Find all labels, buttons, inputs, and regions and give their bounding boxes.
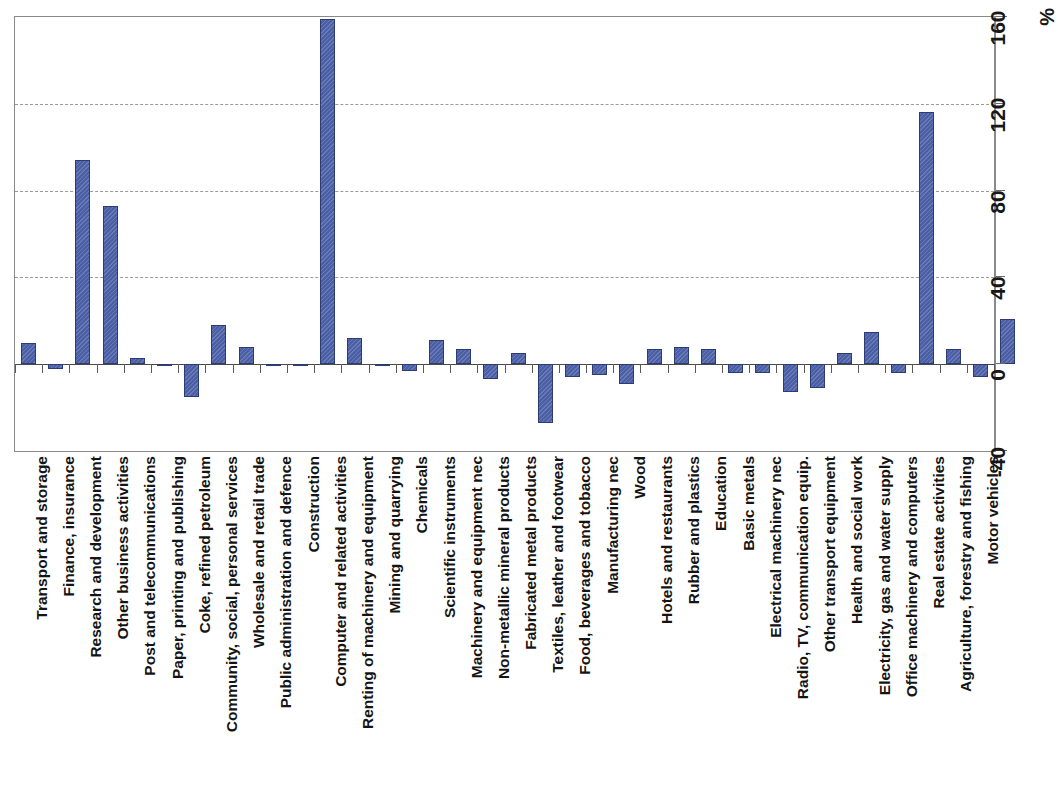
axis-tick-label: 40 <box>986 277 1010 300</box>
bar <box>647 349 662 364</box>
bar <box>103 206 118 364</box>
bar <box>511 353 526 364</box>
bar <box>239 347 254 364</box>
category-label: Coke, refined petroleum <box>197 456 213 633</box>
bar <box>674 347 689 364</box>
bar <box>755 364 770 373</box>
category-tick <box>505 364 506 373</box>
category-tick <box>341 364 342 373</box>
axis-tick-0 <box>996 363 1005 364</box>
category-tick <box>314 364 315 373</box>
bar <box>320 19 335 364</box>
category-tick <box>640 364 641 373</box>
category-tick <box>124 364 125 373</box>
bar <box>21 343 36 365</box>
bar <box>864 332 879 365</box>
category-label: Wholesale and retail trade <box>251 456 267 648</box>
category-label: Real estate activities <box>931 456 947 609</box>
category-label: Public administration and defence <box>278 456 294 708</box>
bar <box>810 364 825 388</box>
category-tick <box>205 364 206 373</box>
category-tick <box>695 364 696 373</box>
category-label: Hotels and restaurants <box>659 456 675 624</box>
category-tick <box>858 364 859 373</box>
value-axis: 16012080400-40 <box>995 16 998 452</box>
category-tick <box>668 364 669 373</box>
bar <box>783 364 798 392</box>
axis-tick-label: 160 <box>986 10 1010 45</box>
category-label: Community, social, personal services <box>224 456 240 732</box>
bar <box>701 349 716 364</box>
category-label: Mining and quarrying <box>387 456 403 614</box>
bar <box>266 364 281 366</box>
category-label: Non-metallic mineral products <box>496 456 512 679</box>
bar <box>347 338 362 364</box>
category-tick <box>967 364 968 373</box>
axis-tick-label: 80 <box>986 190 1010 213</box>
bar <box>157 364 172 366</box>
category-tick <box>287 364 288 373</box>
bar <box>1000 319 1015 365</box>
category-label: Radio, TV, communication equip. <box>795 456 811 699</box>
category-tick <box>69 364 70 373</box>
category-tick <box>477 364 478 373</box>
bar <box>130 358 145 365</box>
category-label: Textiles, leather and footwear <box>550 456 566 673</box>
category-label: Machinery and equipment nec <box>469 456 485 678</box>
category-label: Rubber and plastics <box>686 456 702 604</box>
category-label: Construction <box>306 456 322 552</box>
category-label: Other business activities <box>115 456 131 640</box>
category-tick <box>613 364 614 373</box>
category-tick <box>151 364 152 373</box>
bar <box>184 364 199 397</box>
bar <box>483 364 498 379</box>
category-tick <box>260 364 261 373</box>
category-label: Health and social work <box>849 456 865 624</box>
category-label: Manufacturing nec <box>605 456 621 594</box>
bar <box>728 364 743 373</box>
category-label: Wood <box>632 456 648 499</box>
category-labels: Transport and storageFinance, insuranceR… <box>0 456 1010 806</box>
bars-layer <box>15 17 994 451</box>
category-tick <box>749 364 750 373</box>
category-label: Scientific instruments <box>442 456 458 618</box>
bar <box>375 364 390 366</box>
category-tick <box>586 364 587 373</box>
category-label: Other transport equipment <box>822 456 838 652</box>
plot-area <box>14 16 995 452</box>
bar <box>48 364 63 368</box>
category-tick <box>178 364 179 373</box>
bar <box>75 160 90 364</box>
category-label: Food, beverages and tobacco <box>577 456 593 675</box>
bar <box>592 364 607 375</box>
bar <box>919 112 934 364</box>
category-tick <box>776 364 777 373</box>
category-label: Transport and storage <box>34 456 50 620</box>
category-tick <box>97 364 98 373</box>
category-tick <box>369 364 370 373</box>
category-tick <box>15 364 16 373</box>
bar <box>429 340 444 364</box>
category-label: Education <box>713 456 729 531</box>
bar <box>837 353 852 364</box>
bar <box>211 325 226 364</box>
category-label: Post and telecommunications <box>142 456 158 676</box>
category-label: Fabricated metal products <box>523 456 539 650</box>
category-label: Finance, insurance <box>61 456 77 596</box>
category-tick <box>423 364 424 373</box>
percent-unit-label: % <box>1036 8 1058 26</box>
category-tick <box>831 364 832 373</box>
category-label: Basic metals <box>741 456 757 551</box>
category-label: Paper, printing and publishing <box>170 456 186 679</box>
bar <box>565 364 580 377</box>
category-tick <box>396 364 397 373</box>
bar <box>456 349 471 364</box>
category-label: Chemicals <box>414 456 430 534</box>
axis-tick-label: 0 <box>986 369 1010 381</box>
bar <box>402 364 417 371</box>
category-label: Agriculture, forestry and fishing <box>958 456 974 692</box>
category-tick <box>450 364 451 373</box>
category-label: Electrical machinery nec <box>768 456 784 638</box>
bar-chart: 16012080400-40 % Transport and storageFi… <box>0 0 1058 806</box>
category-label: Renting of machinery and equipment <box>360 456 376 729</box>
